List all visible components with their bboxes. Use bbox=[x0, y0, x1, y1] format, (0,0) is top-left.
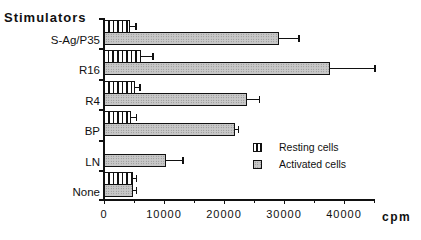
error-bar-cap bbox=[238, 126, 240, 133]
error-bar-cap bbox=[136, 114, 138, 121]
x-tick-label: 10000 bbox=[146, 208, 182, 220]
y-tick bbox=[99, 48, 103, 50]
error-bar-cap bbox=[152, 53, 154, 60]
x-minor-tick bbox=[314, 199, 316, 203]
error-bar-cap bbox=[182, 157, 184, 164]
category-label: None bbox=[73, 186, 101, 198]
category-label: R4 bbox=[85, 95, 100, 107]
error-bar-cap bbox=[136, 175, 138, 182]
x-tick bbox=[344, 199, 346, 204]
error-bar bbox=[166, 160, 183, 161]
y-tick bbox=[99, 18, 103, 20]
x-tick bbox=[104, 199, 106, 204]
category-label: S-Ag/P35 bbox=[51, 34, 100, 46]
x-tick bbox=[284, 199, 286, 204]
activated-bar-bp bbox=[104, 123, 235, 136]
x-tick bbox=[164, 199, 166, 204]
x-tick-label: 0 bbox=[100, 208, 107, 220]
category-label: R16 bbox=[79, 64, 100, 76]
error-bar bbox=[279, 38, 299, 39]
error-bar-cap bbox=[374, 65, 376, 72]
activated-bar-r16 bbox=[104, 62, 330, 75]
x-minor-tick bbox=[134, 199, 136, 203]
activated-bar-r4 bbox=[104, 93, 247, 106]
error-bar-cap bbox=[259, 96, 261, 103]
striped-swatch-icon bbox=[253, 143, 262, 152]
error-bar bbox=[247, 99, 259, 100]
y-tick bbox=[99, 109, 103, 111]
y-tick bbox=[99, 79, 103, 81]
x-tick bbox=[224, 199, 226, 204]
error-bar-cap bbox=[136, 187, 138, 194]
x-axis-line bbox=[103, 199, 375, 201]
activated-bar-ln bbox=[104, 154, 166, 167]
x-tick-label: 20000 bbox=[206, 208, 242, 220]
error-bar bbox=[141, 56, 153, 57]
y-tick bbox=[99, 199, 103, 201]
y-tick bbox=[99, 140, 103, 142]
x-minor-tick bbox=[194, 199, 196, 203]
x-axis-unit: cpm bbox=[382, 210, 411, 224]
category-label: LN bbox=[85, 156, 100, 168]
x-minor-tick bbox=[254, 199, 256, 203]
activated-bar-none bbox=[104, 184, 133, 197]
stippled-swatch-icon bbox=[253, 160, 262, 169]
x-minor-tick bbox=[374, 199, 376, 203]
legend-label: Activated cells bbox=[279, 158, 346, 170]
error-bar bbox=[330, 68, 375, 69]
error-bar-cap bbox=[298, 35, 300, 42]
legend-label: Resting cells bbox=[279, 141, 339, 153]
y-tick bbox=[99, 170, 103, 172]
error-bar-cap bbox=[139, 84, 141, 91]
error-bar-cap bbox=[135, 23, 137, 30]
x-tick-label: 30000 bbox=[266, 208, 302, 220]
y-axis-title: Stimulators bbox=[4, 10, 87, 25]
activated-bar-s-ag-p35 bbox=[104, 32, 279, 45]
x-tick-label: 40000 bbox=[326, 208, 362, 220]
category-label: BP bbox=[85, 125, 100, 137]
